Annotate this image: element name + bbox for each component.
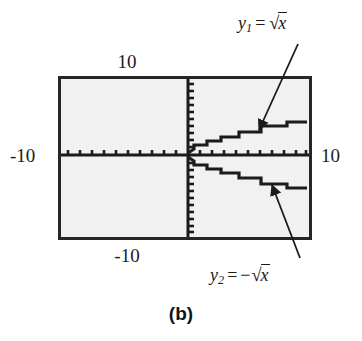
figure-container: 10 -10 -10 10 y1=√x y2=−√x (b) [0,0,362,341]
axis-label-right: 10 [321,146,340,165]
annotation-y2-radical: √x [250,266,269,284]
annotation-y2-radicand: x [261,264,270,285]
annotation-y1-variable: y [238,13,246,33]
annotation-label-y1: y1=√x [238,14,287,35]
radical-icon: √ [251,265,261,285]
axis-label-left: -10 [10,146,35,165]
calculator-screen [58,76,312,240]
annotation-y2-equals: = [227,265,237,285]
curve-y1 [188,122,307,153]
annotation-y1-equals: = [255,13,265,33]
figure-caption: (b) [0,303,362,325]
axis-label-top: 10 [0,52,254,71]
annotation-y2-sign: − [240,265,250,285]
axis-label-bottom: -10 [0,246,254,265]
annotation-y1-subscript: 1 [246,21,252,35]
annotation-y1-radicand: x [278,12,287,33]
annotation-label-y2: y2=−√x [210,266,270,287]
curve-y2 [188,157,307,188]
annotation-y2-subscript: 2 [218,273,224,287]
annotation-y1-radical: √x [268,14,287,32]
plot-canvas [61,79,309,237]
annotation-y2-variable: y [210,265,218,285]
